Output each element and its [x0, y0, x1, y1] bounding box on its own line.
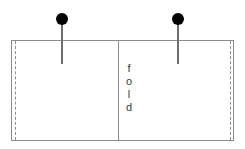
left-pin-shaft	[61, 20, 63, 64]
fold-label-char-1: f	[127, 62, 130, 75]
seam-guide-left	[15, 41, 16, 140]
right-pin-head-icon	[172, 13, 184, 25]
right-pin-shaft	[177, 20, 179, 64]
fold-label-char-3: l	[128, 88, 130, 101]
fold-label-char-4: d	[126, 101, 132, 114]
seam-guide-right	[230, 41, 231, 140]
left-pin-head-icon	[56, 13, 68, 25]
fold-label-char-2: o	[126, 75, 132, 88]
fold-label: f o l d	[123, 62, 135, 114]
fold-crease-line	[118, 40, 119, 141]
diagram-canvas: f o l d	[0, 0, 245, 149]
